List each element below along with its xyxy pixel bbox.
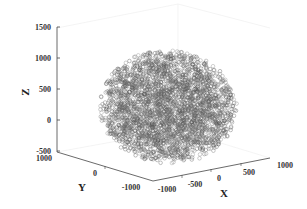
- z-tick-1500: 1500: [35, 23, 51, 32]
- x-tick-500: 500: [243, 168, 255, 177]
- z-axis-label: Z: [19, 88, 31, 95]
- x-tick-1000: 1000: [277, 161, 293, 170]
- z-tick-1000: 1000: [35, 54, 51, 63]
- y-axis-label: Y: [78, 181, 86, 193]
- y-tick-neg1000: -1000: [122, 183, 141, 192]
- y-axis-ticks: 1000 0 -1000: [36, 154, 140, 192]
- y-tick-0: 0: [93, 169, 97, 178]
- x-tick-0: 0: [217, 174, 221, 183]
- z-axis-ticks: 1500 1000 500 0 -500: [35, 23, 60, 156]
- y-tick-1000: 1000: [36, 154, 52, 163]
- z-tick-0: 0: [47, 116, 51, 125]
- x-tick-neg500: -500: [188, 180, 203, 189]
- z-tick-500: 500: [39, 85, 51, 94]
- 3d-scatter-plot: 1500 1000 500 0 -500 1000 0 -1000 -1000 …: [0, 0, 307, 209]
- x-axis-label: X: [220, 187, 228, 199]
- scatter-points: [99, 49, 239, 165]
- x-tick-neg1000: -1000: [158, 185, 177, 194]
